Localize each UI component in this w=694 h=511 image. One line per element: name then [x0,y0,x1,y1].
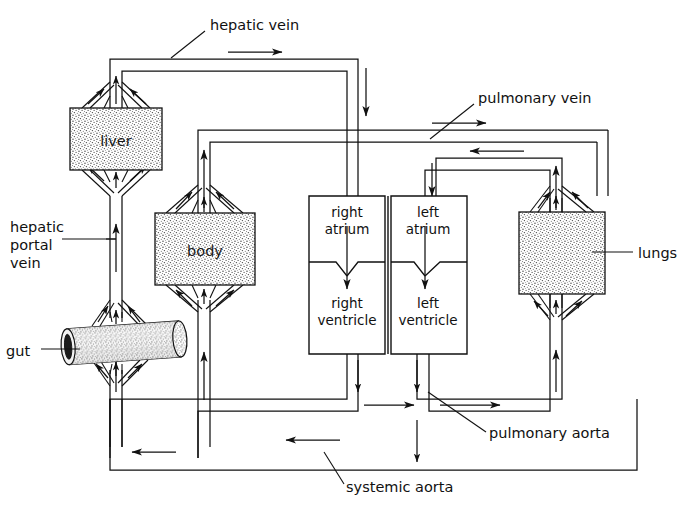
label-left-atrium-line2: atrium [406,221,451,237]
arrow-fan-liver-tr [130,89,146,104]
arrow-fan-body-tr [216,192,234,209]
arrow-fan-body-tl [176,192,192,209]
leader-systemic-aorta [324,452,344,484]
organ-lungs [519,212,605,294]
organ-label-liver: liver [100,133,132,149]
systemic-aorta-vessel [110,354,637,470]
label-right-atrium-line2: atrium [325,221,370,237]
label-right-ventricle-line2: ventricle [318,312,377,328]
label-right-atrium-line1: right [331,204,363,220]
leader-pulmonary-vein [430,104,474,139]
label-gut: gut [6,343,30,359]
label-lungs: lungs [638,245,677,261]
label-pulmonary-aorta: pulmonary aorta [489,425,610,441]
label-left-atrium-line1: left [417,204,439,220]
diagram-svg: liver body hepatic vein pulmonary vein h… [0,0,694,511]
label-left-ventricle-line1: left [417,295,439,311]
circulation-diagram-canvas: liver body hepatic vein pulmonary vein h… [0,0,694,511]
organ-body: body [155,213,255,285]
gut-bottom-fan [92,360,148,386]
arrow-fan-gut-tl [98,306,108,322]
label-pulmonary-vein: pulmonary vein [478,90,591,106]
label-left-ventricle-line2: ventricle [399,312,458,328]
arrow-fan-lungs-tr [572,192,588,208]
label-hepatic-portal-vein-line1: hepatic [10,219,64,235]
systemic-branch-left [110,399,122,458]
vena-cava-right-limb [597,130,608,196]
organ-label-body: body [187,243,223,259]
label-right-ventricle-line1: right [331,295,363,311]
leader-pulmonary-aorta [428,392,486,432]
organ-gut [60,321,188,366]
label-hepatic-vein: hepatic vein [210,17,299,33]
organ-liver: liver [70,108,162,170]
label-hepatic-portal-vein-line3: vein [10,255,41,271]
label-systemic-aorta: systemic aorta [346,479,453,495]
label-hepatic-portal-vein-line2: portal [10,237,53,253]
arrow-fan-lungs-bl [534,301,548,316]
leader-hepatic-vein [171,31,205,58]
